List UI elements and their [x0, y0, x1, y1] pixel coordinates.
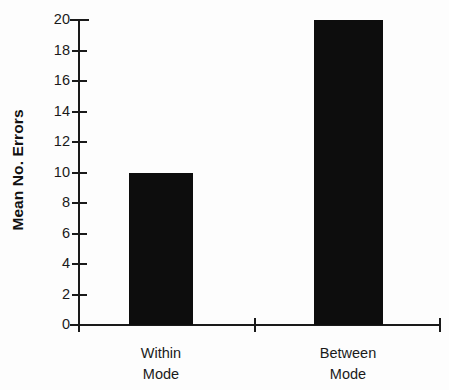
bar — [129, 173, 193, 326]
x-axis-tick — [254, 318, 256, 332]
y-axis-tick-label: 12 — [26, 134, 70, 149]
plot-area: 02468101214161820 WithinModeBetweenMode — [0, 0, 449, 390]
y-axis-tick-label: 10 — [26, 165, 70, 180]
bar-chart: Mean No. Errors 02468101214161820 Within… — [0, 0, 449, 390]
y-axis-tick-label: 14 — [26, 104, 70, 119]
y-axis-tick — [72, 263, 87, 265]
x-axis-category-label-line: Within — [91, 343, 231, 364]
bar — [314, 20, 383, 325]
y-axis-tick — [72, 141, 87, 143]
y-axis-tick-label: 20 — [26, 12, 70, 27]
y-axis-tick-label: 18 — [26, 43, 70, 58]
y-axis-tick — [72, 233, 87, 235]
y-axis-tick-label: 0 — [26, 317, 70, 332]
y-axis-tick-label: 4 — [26, 256, 70, 271]
y-axis-tick — [72, 80, 87, 82]
x-axis-category-label-line: Mode — [91, 364, 231, 385]
x-axis-tick — [78, 318, 80, 332]
x-axis-tick — [439, 318, 441, 332]
y-axis-tick-label: 8 — [26, 195, 70, 210]
y-axis-tick-label: 16 — [26, 73, 70, 88]
y-axis-tick — [72, 172, 87, 174]
y-axis-tick-label: 6 — [26, 226, 70, 241]
x-axis-category-label: WithinMode — [91, 343, 231, 385]
y-axis-tick — [70, 19, 89, 21]
y-axis-tick-label: 2 — [26, 287, 70, 302]
x-axis-category-label-line: Mode — [278, 364, 418, 385]
y-axis-tick — [72, 111, 87, 113]
x-axis-category-label: BetweenMode — [278, 343, 418, 385]
y-axis-tick — [72, 294, 87, 296]
y-axis-tick — [72, 202, 87, 204]
x-axis-category-label-line: Between — [278, 343, 418, 364]
y-axis-tick — [72, 50, 87, 52]
